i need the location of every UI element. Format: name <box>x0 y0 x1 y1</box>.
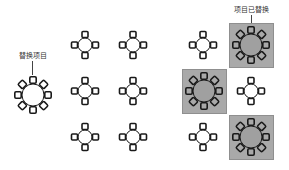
result-item-label: 项目已替换 <box>234 6 269 14</box>
round-table-8-seats-icon <box>231 117 271 157</box>
left-grid-table-5[interactable] <box>70 122 100 152</box>
source-round-table-8-seats-icon[interactable] <box>13 75 53 115</box>
right-grid-table-3-replaced[interactable] <box>184 71 224 111</box>
right-grid-table-4[interactable] <box>236 76 266 106</box>
left-grid-table-4[interactable] <box>118 76 148 106</box>
round-table-4-seats-icon <box>118 30 148 60</box>
round-table-4-seats-icon <box>188 30 218 60</box>
round-table-4-seats-icon <box>118 76 148 106</box>
round-table-4-seats-icon <box>118 122 148 152</box>
source-label-leader-line <box>32 61 33 75</box>
left-grid-table-1[interactable] <box>70 30 100 60</box>
left-grid-table-2[interactable] <box>118 30 148 60</box>
round-table-4-seats-icon <box>70 122 100 152</box>
diagram-canvas: 替换项目 项目已替换 <box>0 0 289 170</box>
round-table-4-seats-icon <box>70 30 100 60</box>
right-grid-table-2-replaced[interactable] <box>231 25 271 65</box>
round-table-8-seats-icon <box>231 25 271 65</box>
right-grid-table-1[interactable] <box>188 30 218 60</box>
left-grid-table-6[interactable] <box>118 122 148 152</box>
round-table-8-seats-icon <box>184 71 224 111</box>
source-item-label: 替换项目 <box>19 52 47 60</box>
right-grid-table-5[interactable] <box>188 122 218 152</box>
round-table-4-seats-icon <box>188 122 218 152</box>
round-table-4-seats-icon <box>70 76 100 106</box>
round-table-8-seats-icon <box>13 75 53 115</box>
right-grid-table-6-replaced[interactable] <box>231 117 271 157</box>
left-grid-table-3[interactable] <box>70 76 100 106</box>
round-table-4-seats-icon <box>236 76 266 106</box>
